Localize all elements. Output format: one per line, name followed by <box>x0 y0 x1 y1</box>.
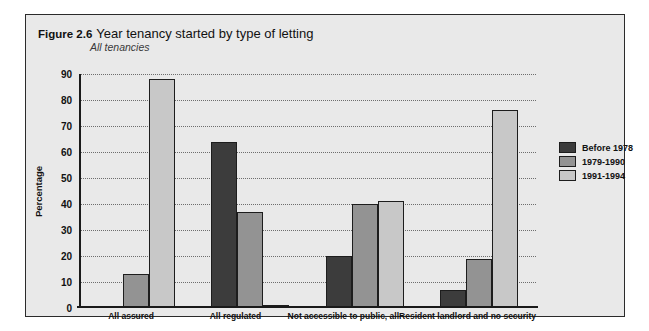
legend-swatch <box>559 170 576 181</box>
legend-item[interactable]: 1979-1990 <box>559 156 633 167</box>
plot-area: 0102030405060708090 <box>79 74 536 308</box>
bar[interactable] <box>466 259 492 308</box>
bar[interactable] <box>326 256 352 308</box>
legend-item[interactable]: Before 1978 <box>559 142 633 153</box>
y-tick-label: 10 <box>61 277 72 288</box>
bar-group <box>79 74 193 308</box>
figure-title: Year tenancy started by type of letting <box>96 26 313 41</box>
bar-set <box>97 74 175 308</box>
y-tick-label: 70 <box>61 121 72 132</box>
bar-set <box>211 74 289 308</box>
y-axis-line <box>79 74 81 308</box>
legend-swatch <box>559 142 576 153</box>
y-tick-label: 20 <box>61 251 72 262</box>
bar[interactable] <box>237 212 263 308</box>
legend-swatch <box>559 156 576 167</box>
y-tick-label: 0 <box>66 303 72 314</box>
legend-label: 1991-1994 <box>582 171 625 181</box>
bar[interactable] <box>378 201 404 308</box>
y-tick-label: 80 <box>61 95 72 106</box>
legend: Before 19781979-19901991-1994 <box>559 142 633 184</box>
figure-title-row: Figure 2.6Year tenancy started by type o… <box>38 24 313 42</box>
x-axis-line <box>77 306 538 308</box>
bar-groups <box>79 74 536 308</box>
bar-set <box>440 74 518 308</box>
y-axis-title: Percentage <box>32 74 46 308</box>
bar[interactable] <box>149 79 175 308</box>
bar-group <box>422 74 536 308</box>
x-tick-label: Not accessible to public, all <box>288 311 399 321</box>
bar-group <box>308 74 422 308</box>
bar[interactable] <box>123 274 149 308</box>
y-tick-label: 30 <box>61 224 72 235</box>
y-tick-label: 50 <box>61 173 72 184</box>
y-tick-label: 40 <box>61 199 72 210</box>
x-tick-label: All assured <box>79 311 183 321</box>
legend-label: Before 1978 <box>582 143 633 153</box>
bar-set <box>326 74 404 308</box>
bar[interactable] <box>352 204 378 308</box>
x-tick-label: All regulated <box>183 311 287 321</box>
legend-item[interactable]: 1991-1994 <box>559 170 633 181</box>
y-axis-title-text: Percentage <box>34 165 45 216</box>
x-axis-labels: All assuredAll regulatedNot accessible t… <box>79 311 536 321</box>
legend-label: 1979-1990 <box>582 157 625 167</box>
x-tick-label: Resident landlord and no security <box>399 311 536 321</box>
figure-number: Figure 2.6 <box>38 28 92 40</box>
y-tick-label: 90 <box>61 69 72 80</box>
figure-panel: Figure 2.6Year tenancy started by type o… <box>25 14 625 317</box>
bar[interactable] <box>211 142 237 308</box>
y-tick-label: 60 <box>61 146 72 157</box>
bar[interactable] <box>492 110 518 308</box>
figure-subtitle: All tenancies <box>90 41 150 53</box>
bar-group <box>193 74 307 308</box>
